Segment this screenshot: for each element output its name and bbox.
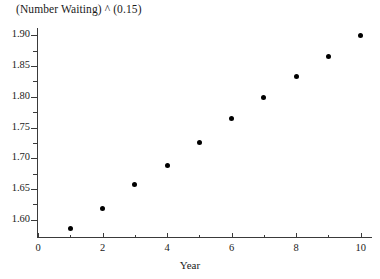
data-point (132, 182, 137, 187)
y-axis-tick-label: 1.75 (2, 122, 30, 132)
y-axis-tick (31, 128, 37, 129)
chart-title: (Number Waiting) ^ (0.15) (16, 3, 142, 15)
y-axis-minor-tick (33, 51, 37, 52)
data-point (229, 116, 234, 121)
y-axis-tick (31, 97, 37, 98)
x-axis-title: Year (0, 259, 380, 271)
x-axis-tick-label: 4 (157, 242, 177, 253)
scatter-plot-figure: (Number Waiting) ^ (0.15) 1.601.651.701.… (0, 0, 380, 279)
y-axis-tick (31, 158, 37, 159)
x-axis-tick-label: 6 (222, 242, 242, 253)
data-point (326, 54, 331, 59)
x-axis-tick-label: 0 (28, 242, 48, 253)
data-point (165, 163, 170, 168)
x-axis-tick-label: 10 (351, 242, 371, 253)
data-point (294, 74, 299, 79)
y-axis-minor-tick (33, 143, 37, 144)
y-axis-tick-label: 1.90 (2, 29, 30, 39)
y-axis-tick-label: 1.85 (2, 60, 30, 70)
y-axis-tick (31, 189, 37, 190)
y-axis-minor-tick (33, 174, 37, 175)
y-axis-tick (31, 66, 37, 67)
x-axis-tick-label: 8 (286, 242, 306, 253)
y-axis-tick (31, 220, 37, 221)
y-axis-tick-label: 1.70 (2, 152, 30, 162)
x-axis-tick-label: 2 (93, 242, 113, 253)
y-axis-tick-label: 1.65 (2, 183, 30, 193)
y-axis-tick-label: 1.80 (2, 91, 30, 101)
data-point (358, 33, 363, 38)
x-axis-line (37, 237, 372, 238)
plot-area (38, 30, 372, 236)
y-axis-minor-tick (33, 112, 37, 113)
y-axis-minor-tick (33, 81, 37, 82)
y-axis-tick-label: 1.60 (2, 214, 30, 224)
y-axis-minor-tick (33, 204, 37, 205)
y-axis-tick (31, 35, 37, 36)
